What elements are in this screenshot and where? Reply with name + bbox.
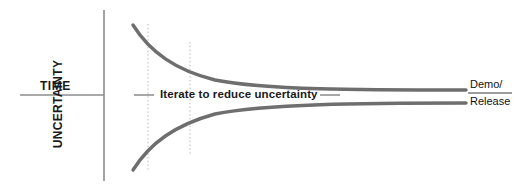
lower-uncertainty-curve	[133, 103, 466, 170]
upper-uncertainty-curve	[133, 25, 466, 90]
y-axis-label: UNCERTAINTY	[52, 24, 64, 184]
endpoint-label-release: Release	[470, 96, 510, 107]
endpoint-label-demo: Demo/	[470, 79, 502, 90]
uncertainty-cone-diagram: TIME UNCERTAINTY Iterate to reduce uncer…	[0, 0, 514, 192]
center-annotation: Iterate to reduce uncertainty	[160, 89, 318, 101]
